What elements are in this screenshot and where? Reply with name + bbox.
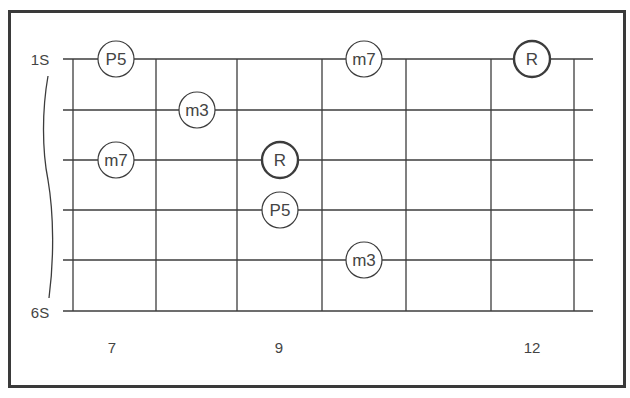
note-label: m3 (185, 101, 209, 120)
string-brace (44, 76, 53, 298)
string-label-top: 1S (31, 51, 49, 68)
note-label: P5 (270, 201, 291, 220)
fret-number-label: 7 (108, 339, 116, 356)
fret-number-label: 12 (524, 339, 541, 356)
note-label: m7 (104, 151, 128, 170)
note-label: R (274, 151, 286, 170)
note-label: m7 (352, 50, 376, 69)
note-label: m3 (352, 251, 376, 270)
note-label: R (526, 50, 538, 69)
string-label-bottom: 6S (31, 304, 49, 321)
note-label: P5 (106, 50, 127, 69)
fret-number-label: 9 (275, 339, 283, 356)
